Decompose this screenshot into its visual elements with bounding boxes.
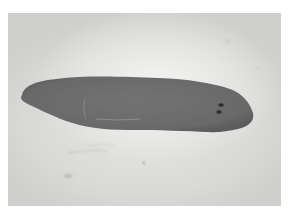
debris-mark: x bbox=[142, 159, 146, 166]
planarian-figure: x bbox=[8, 13, 281, 206]
cropped-caption bbox=[0, 0, 289, 4]
micrograph: x bbox=[8, 13, 281, 206]
